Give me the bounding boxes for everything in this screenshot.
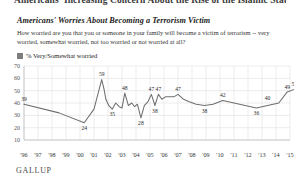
line-chart-svg: 10203040506070 3924593548284747384738423… bbox=[0, 62, 294, 148]
x-axis-tick-label: '05 bbox=[146, 151, 153, 158]
x-axis-tick-label: '96 bbox=[20, 151, 27, 158]
data-point-label: 39 bbox=[21, 96, 27, 102]
data-point-label: 38 bbox=[152, 108, 158, 114]
x-axis-tick-label: '10 bbox=[216, 151, 223, 158]
y-gridlines bbox=[24, 66, 290, 140]
data-point-label: 24 bbox=[81, 125, 87, 131]
x-axis-tick-label: '99 bbox=[62, 151, 69, 158]
chart-plot-area: 10203040506070 3924593548284747384738423… bbox=[0, 62, 294, 148]
svg-text:60: 60 bbox=[14, 75, 20, 81]
x-axis-tick-label: '98 bbox=[48, 151, 55, 158]
data-point-label: 59 bbox=[99, 71, 105, 77]
data-point-label: 47 bbox=[156, 86, 162, 92]
x-axis-tick-label: '15 bbox=[286, 151, 293, 158]
data-point-labels: 39245935482847473847384236404951 bbox=[21, 71, 294, 131]
x-axis-tick-label: '06 bbox=[160, 151, 167, 158]
x-axis-tick-labels: '96'97'98'99'00'01'02'03'04'05'06'07'08'… bbox=[0, 147, 294, 159]
x-axis-tick-label: '08 bbox=[188, 151, 195, 158]
data-point-label: 49 bbox=[284, 84, 290, 90]
svg-text:30: 30 bbox=[14, 112, 20, 118]
svg-text:10: 10 bbox=[14, 137, 20, 143]
x-axis-tick-label: '12 bbox=[244, 151, 251, 158]
x-axis-svg: '96'97'98'99'00'01'02'03'04'05'06'07'08'… bbox=[0, 149, 294, 161]
gallup-brand-logo: GALLUP bbox=[16, 166, 52, 175]
x-axis-tick-label: '14 bbox=[272, 151, 279, 158]
x-axis-tick-label: '09 bbox=[202, 151, 209, 158]
data-point-label: 47 bbox=[175, 86, 181, 92]
legend-label: % Very/Somewhat worried bbox=[26, 52, 97, 59]
data-point-label: 47 bbox=[149, 86, 155, 92]
data-point-label: 28 bbox=[138, 120, 144, 126]
y-axis-tick-labels: 10203040506070 bbox=[14, 63, 20, 143]
data-point-label: 42 bbox=[220, 92, 226, 98]
x-axis-tick-label: '04 bbox=[132, 151, 139, 158]
svg-text:40: 40 bbox=[14, 100, 20, 106]
x-axis-tick-label: '00 bbox=[76, 151, 83, 158]
data-point-label: 40 bbox=[265, 95, 271, 101]
data-point-label: 36 bbox=[254, 110, 260, 116]
x-axis-tick-label: '07 bbox=[174, 151, 181, 158]
chart-legend: % Very/Somewhat worried bbox=[17, 52, 97, 59]
x-axis-tick-label: '11 bbox=[230, 151, 237, 158]
svg-text:70: 70 bbox=[14, 63, 20, 69]
x-axis-tick-label: '03 bbox=[118, 151, 125, 158]
x-axis-tick-label: '13 bbox=[258, 151, 265, 158]
x-axis-tick-label: '97 bbox=[34, 151, 41, 158]
legend-swatch-icon bbox=[17, 53, 23, 59]
x-axis-tick-label: '01 bbox=[90, 151, 97, 158]
gallup-chart-page: Americans' Increasing Concern About the … bbox=[0, 0, 294, 183]
data-point-label: 35 bbox=[109, 111, 115, 117]
data-point-label: 38 bbox=[202, 108, 208, 114]
data-point-label: 48 bbox=[122, 85, 128, 91]
chart-title: Americans' Worries About Becoming a Terr… bbox=[17, 16, 210, 25]
x-axis-tick-label: '02 bbox=[104, 151, 111, 158]
svg-text:20: 20 bbox=[14, 125, 20, 131]
svg-text:50: 50 bbox=[14, 88, 20, 94]
chart-subtitle: How worried are you that you or someone … bbox=[17, 28, 281, 46]
data-point-label: 51 bbox=[291, 81, 294, 87]
article-headline: Americans' Increasing Concern About the … bbox=[14, 0, 286, 5]
